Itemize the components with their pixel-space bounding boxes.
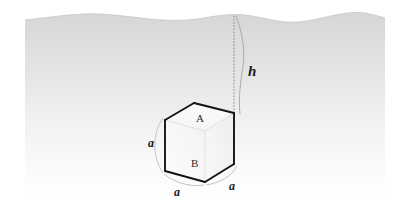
figure-canvas [0,0,403,209]
edge-label-a-bottom-left: a [174,186,180,198]
cube-face-label-a: A [196,113,204,124]
cube-face-label-b: B [191,158,198,169]
physics-figure-submerged-cube: h a a a A B [0,0,403,209]
edge-label-a-bottom-right: a [229,180,235,192]
edge-label-a-left: a [148,137,154,149]
depth-label-h: h [248,64,256,79]
